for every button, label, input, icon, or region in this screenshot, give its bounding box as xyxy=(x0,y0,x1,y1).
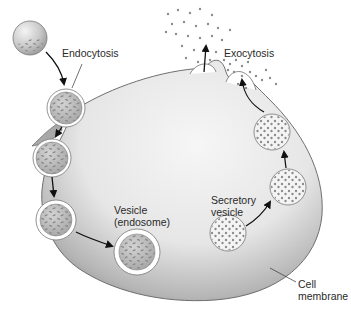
internalizing-vesicle xyxy=(33,139,71,177)
secretory-vesicle-label: Secretory vesicle xyxy=(211,194,256,218)
cell-membrane-label: Cell membrane xyxy=(298,278,348,302)
endocytosis-exocytosis-diagram xyxy=(0,0,351,310)
endosome xyxy=(114,229,160,275)
exocytosis-label: Exocytosis xyxy=(224,47,274,59)
transport-vesicle-upper xyxy=(254,114,290,150)
endocytosis-leader-line xyxy=(72,64,82,88)
membrane-label-line2: membrane xyxy=(298,290,348,302)
secretory-label-line1: Secretory xyxy=(211,194,256,206)
secretory-vesicle xyxy=(210,215,246,251)
internal-vesicle xyxy=(36,200,76,240)
secretory-label-line2: vesicle xyxy=(211,206,256,218)
transport-vesicle-lower xyxy=(270,169,306,205)
vesicle-label-line2: (endosome) xyxy=(114,216,170,228)
endocytosis-label: Endocytosis xyxy=(62,47,119,59)
membrane-label-line1: Cell xyxy=(298,278,348,290)
vesicle-label: Vesicle (endosome) xyxy=(114,204,170,228)
vesicle-label-line1: Vesicle xyxy=(114,204,170,216)
budding-vesicle xyxy=(47,89,85,127)
